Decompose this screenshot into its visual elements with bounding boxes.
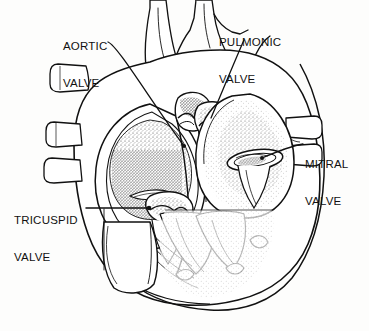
label-tricuspid-valve-line2: VALVE [14,251,78,263]
label-aortic-valve-line2: VALVE [63,77,107,89]
label-mitral-valve-line2: VALVE [305,195,348,207]
label-pulmonic-valve-line1: PULMONIC [219,36,281,48]
label-tricuspid-valve-line1: TRICUSPID [14,214,78,226]
right-ventricle [102,222,157,293]
heart-valves-figure: AORTIC VALVE PULMONIC VALVE MITRAL VALVE… [0,0,369,331]
label-mitral-valve: MITRAL VALVE [305,133,348,232]
label-tricuspid-valve: TRICUSPID VALVE [14,189,78,288]
label-pulmonic-valve-line2: VALVE [219,73,281,85]
label-aortic-valve: AORTIC VALVE [63,15,107,114]
label-pulmonic-valve: PULMONIC VALVE [219,11,281,110]
label-mitral-valve-line1: MITRAL [305,158,348,170]
label-aortic-valve-line1: AORTIC [63,40,107,52]
